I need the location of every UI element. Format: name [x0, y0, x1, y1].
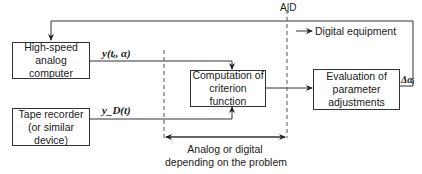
delta-alpha-label: Δαᵢ: [401, 74, 415, 85]
evaluation-line3: adjustments: [328, 96, 385, 109]
analog-or-digital-line1: Analog or digital: [165, 143, 285, 156]
model-output-label: y(tᵢ, α): [102, 47, 131, 59]
criterion-line2: criterion function: [191, 82, 265, 108]
analog-or-digital-line2: depending on the problem: [165, 156, 285, 169]
digital-equipment-label: Digital equipment: [315, 25, 396, 37]
evaluation-line1: Evaluation of: [326, 70, 387, 83]
evaluation-block: Evaluation of parameter adjustments: [313, 69, 400, 110]
tape-recorder-line1: Tape recorder: [19, 108, 84, 121]
tape-recorder-block: Tape recorder (or similar device): [12, 108, 90, 146]
analog-computer-line2: analog computer: [13, 54, 89, 80]
evaluation-line2: parameter: [333, 83, 381, 96]
analog-computer-block: High-speed analog computer: [12, 42, 90, 79]
analog-computer-line1: High-speed: [24, 41, 78, 54]
tape-recorder-line2: (or similar device): [13, 121, 89, 147]
criterion-line1: Computation of: [192, 69, 263, 82]
model-output-line: [89, 61, 232, 69]
ad-boundary-label: A|D: [280, 2, 297, 13]
criterion-function-block: Computation of criterion function: [190, 70, 266, 107]
analog-or-digital-note: Analog or digital depending on the probl…: [165, 143, 285, 169]
desired-output-label: y_D(t): [102, 104, 131, 116]
